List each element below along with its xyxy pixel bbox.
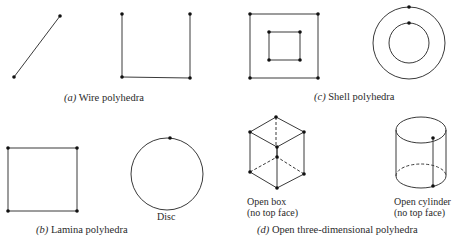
caption-letter: (a) (64, 92, 76, 103)
open-cylinder (396, 117, 446, 188)
disc-label: Disc (157, 211, 175, 222)
open-cylinder-note: (no top face) (394, 207, 445, 218)
open-box-label: Open box (247, 196, 286, 207)
caption-text: Shell polyhedra (328, 91, 394, 102)
vertex-dots (6, 5, 435, 213)
lamina-disc (131, 138, 203, 210)
lamina-square (8, 148, 77, 211)
caption-text: Wire polyhedra (79, 92, 144, 103)
caption-letter: (d) (257, 224, 269, 235)
wire-open-square (122, 14, 190, 78)
open-box (250, 117, 304, 188)
shell-nested-squares (250, 14, 318, 78)
open-box-note: (no top face) (247, 207, 298, 218)
polyhedra-diagram (0, 0, 462, 242)
caption-letter: (c) (314, 91, 326, 102)
shell-concentric-circles (373, 7, 445, 79)
caption-text: Open three-dimensional polyhedra (272, 224, 418, 235)
wire-line-segment (14, 16, 60, 77)
caption-letter: (b) (36, 224, 48, 235)
caption-open-3d-polyhedra: (d) Open three-dimensional polyhedra (257, 224, 418, 235)
caption-shell-polyhedra: (c) Shell polyhedra (314, 91, 394, 102)
caption-lamina-polyhedra: (b) Lamina polyhedra (36, 224, 128, 235)
caption-text: Lamina polyhedra (51, 224, 128, 235)
caption-wire-polyhedra: (a) Wire polyhedra (64, 92, 144, 103)
open-cylinder-label: Open cylinder (394, 196, 451, 207)
